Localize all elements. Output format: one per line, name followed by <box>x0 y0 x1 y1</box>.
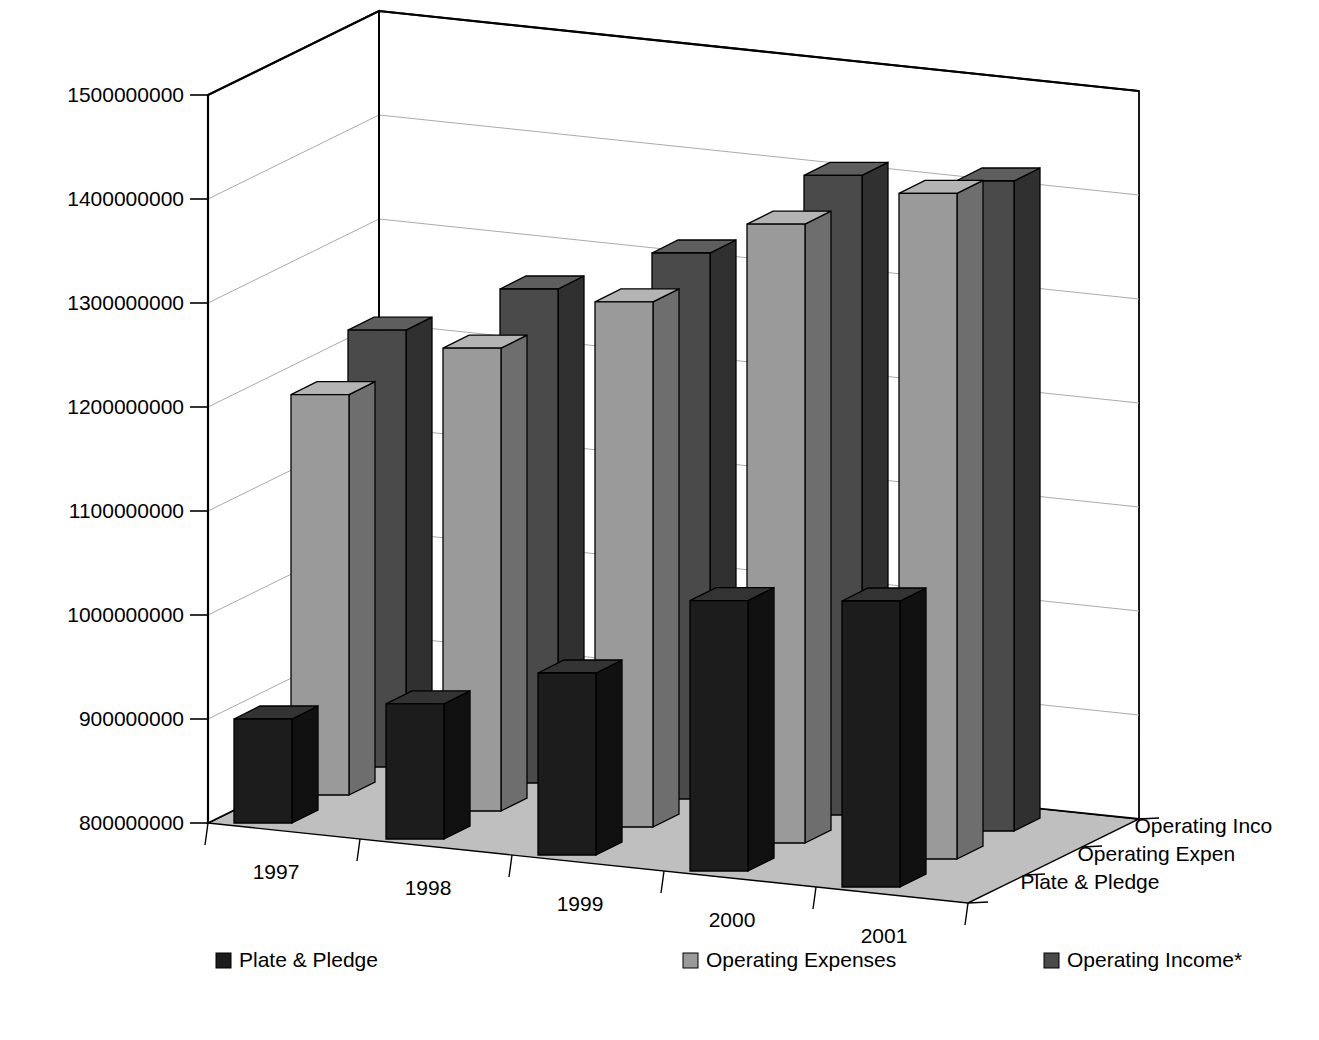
legend-swatch-icon <box>216 953 231 968</box>
x-axis-category-label: 2000 <box>709 908 756 931</box>
bar-plate-pledge-2001 <box>842 588 926 887</box>
legend-item[interactable]: Operating Income* <box>1044 948 1242 971</box>
y-axis-tick-label: 1000000000 <box>67 603 184 626</box>
chart-container: 1500000000140000000013000000001200000000… <box>0 0 1319 1040</box>
z-axis-series-label: Plate & Pledge <box>1021 870 1160 893</box>
y-axis-labels: 1500000000140000000013000000001200000000… <box>67 83 184 834</box>
y-axis-tick-label: 800000000 <box>79 811 184 834</box>
legend-swatch-icon <box>683 953 698 968</box>
x-axis-category-label: 1997 <box>253 860 300 883</box>
legend-item[interactable]: Plate & Pledge <box>216 948 378 971</box>
z-axis-series-label: Operating Inco <box>1135 814 1273 837</box>
chart-svg: 1500000000140000000013000000001200000000… <box>0 0 1319 1040</box>
legend-label: Operating Expenses <box>706 948 896 971</box>
z-axis-series-label: Operating Expen <box>1078 842 1236 865</box>
y-axis-tick-label: 1100000000 <box>69 499 184 522</box>
legend-label: Operating Income* <box>1067 948 1242 971</box>
y-axis-tick-label: 1500000000 <box>67 83 184 106</box>
legend-item[interactable]: Operating Expenses <box>683 948 896 971</box>
y-axis-tick-label: 900000000 <box>79 707 184 730</box>
bar-plate-pledge-2000 <box>690 588 774 871</box>
y-axis-tick-label: 1200000000 <box>67 395 184 418</box>
y-axis-tick-label: 1400000000 <box>67 187 184 210</box>
bar-plate-pledge-1998 <box>386 691 470 839</box>
bar-plate-pledge-1997 <box>234 706 318 823</box>
legend-label: Plate & Pledge <box>239 948 378 971</box>
chart-legend: Plate & PledgeOperating ExpensesOperatin… <box>216 948 1242 971</box>
x-axis-category-label: 1998 <box>405 876 452 899</box>
bar-plate-pledge-1999 <box>538 660 622 855</box>
x-axis-category-label: 2001 <box>861 924 908 947</box>
x-axis-category-label: 1999 <box>557 892 604 915</box>
legend-swatch-icon <box>1044 953 1059 968</box>
y-axis-tick-label: 1300000000 <box>67 291 184 314</box>
